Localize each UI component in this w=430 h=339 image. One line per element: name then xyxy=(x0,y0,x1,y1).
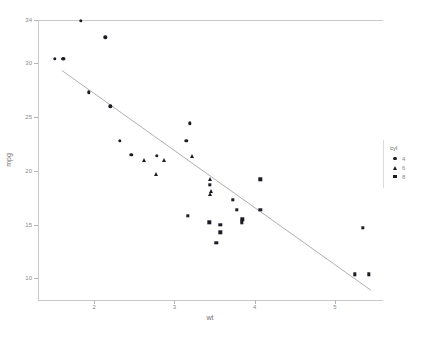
data-point-square xyxy=(208,183,211,186)
x-axis-label: wt xyxy=(207,314,214,321)
square-marker-icon xyxy=(390,175,400,178)
data-point-square xyxy=(231,198,234,201)
x-tick-label: 4 xyxy=(253,304,256,310)
y-tick-label: 25 xyxy=(25,114,32,120)
y-tick-label: 10 xyxy=(25,275,32,281)
data-point-square xyxy=(259,208,262,211)
data-point-square xyxy=(353,272,356,275)
circle-marker-icon xyxy=(390,157,400,160)
data-point-square xyxy=(186,214,189,217)
data-point-square xyxy=(218,223,221,226)
data-point-triangle xyxy=(208,177,212,181)
data-point-square xyxy=(361,226,364,229)
data-point-triangle xyxy=(162,158,166,162)
regression-line xyxy=(38,20,383,300)
legend-item-label: 4 xyxy=(402,156,405,162)
x-tick-label: 5 xyxy=(333,304,336,310)
data-point-square xyxy=(240,218,243,221)
y-axis-label: mpg xyxy=(5,153,12,167)
data-point-square xyxy=(218,230,221,233)
y-tick-label: 20 xyxy=(25,168,32,174)
y-tick-label: 30 xyxy=(25,60,32,66)
data-point-square xyxy=(214,241,217,244)
triangle-marker-icon xyxy=(390,166,400,170)
legend-item-8[interactable]: 8 xyxy=(390,172,405,181)
legend-item-label: 6 xyxy=(402,165,405,171)
legend-item-label: 8 xyxy=(402,174,405,180)
x-tick-label: 2 xyxy=(92,304,95,310)
legend-title: cyl xyxy=(390,145,405,151)
data-point-triangle xyxy=(142,158,146,162)
data-point-triangle xyxy=(209,189,213,193)
legend-divider xyxy=(383,140,384,188)
scatter-plot-chart: 101520253034 2345 mpg wt cyl 468 xyxy=(0,0,430,339)
legend-entries: 468 xyxy=(390,154,405,181)
legend-item-6[interactable]: 6 xyxy=(390,163,405,172)
plot-area: 101520253034 2345 xyxy=(38,20,383,300)
y-tick-label: 34 xyxy=(25,17,32,23)
data-point-square xyxy=(240,221,243,224)
data-point-square xyxy=(367,272,370,275)
data-point-triangle xyxy=(190,154,194,158)
y-tick-label: 15 xyxy=(25,222,32,228)
data-point-square xyxy=(208,221,211,224)
data-point-triangle xyxy=(154,172,158,176)
x-tick-label: 3 xyxy=(173,304,176,310)
data-point-square xyxy=(235,208,238,211)
legend-item-4[interactable]: 4 xyxy=(390,154,405,163)
legend: cyl 468 xyxy=(390,145,405,181)
data-point-square xyxy=(259,178,262,181)
axis-line-bottom xyxy=(38,300,383,301)
